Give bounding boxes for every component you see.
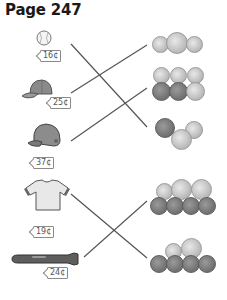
price-tag-bat: 24¢ (47, 267, 68, 279)
match-line-shirt (71, 194, 147, 258)
penny-coin (198, 255, 216, 273)
nickel-coin (166, 32, 188, 54)
t-shirt-icon (24, 178, 70, 212)
price-tag-shirt: 19¢ (33, 226, 54, 238)
penny-coin (198, 197, 216, 215)
baseball-icon (36, 30, 52, 46)
baseball-item (36, 30, 52, 50)
nickel-coin (186, 82, 205, 101)
price-tag-cap: 25¢ (50, 97, 71, 109)
dime-coin (186, 36, 203, 53)
match-line-bat (84, 201, 147, 257)
baseball-bat-icon (10, 252, 82, 266)
bat-item (10, 251, 82, 270)
price-tag-helmet: 37¢ (33, 157, 54, 169)
shirt-item (24, 178, 70, 216)
helmet-item (26, 122, 62, 154)
price-tag-baseball: 16¢ (40, 50, 61, 62)
nickel-coin (171, 129, 192, 150)
batting-helmet-icon (26, 122, 62, 150)
